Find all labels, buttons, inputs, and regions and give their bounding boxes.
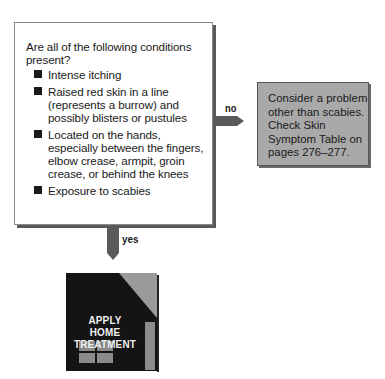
no-result-text: Consider a problem other than scabies. C… — [268, 92, 368, 160]
square-bullet-icon — [34, 70, 42, 78]
apply-home-treatment-label: APPLY HOME TREATMENT — [70, 314, 140, 350]
square-bullet-icon — [34, 130, 42, 138]
yes-arrow-icon — [107, 226, 119, 260]
square-bullet-icon — [34, 186, 42, 194]
question-box: Are all of the following conditions pres… — [14, 22, 213, 225]
no-label: no — [225, 102, 236, 114]
home-treatment-house: APPLY HOME TREATMENT — [66, 273, 159, 372]
conditions-list: Intense itching Raised red skin in a lin… — [26, 68, 211, 197]
square-bullet-icon — [34, 87, 42, 95]
condition-item: Raised red skin in a line (represents a … — [26, 85, 211, 124]
no-arrow-icon — [216, 116, 244, 126]
condition-item: Exposure to scabies — [26, 184, 211, 197]
question-text: Are all of the following conditions pres… — [26, 40, 211, 201]
condition-item: Located on the hands, especially between… — [26, 128, 211, 180]
condition-item: Intense itching — [26, 68, 211, 81]
no-result-box: Consider a problem other than scabies. C… — [257, 82, 369, 166]
yes-label: yes — [122, 233, 139, 245]
question-prompt: Are all of the following conditions pres… — [26, 40, 211, 66]
